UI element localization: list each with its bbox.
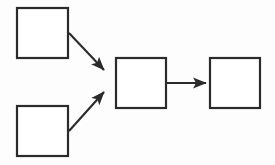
diagram-canvas [0,0,275,165]
node-group [17,8,260,156]
edge-top-left-to-middle[interactable] [69,33,104,70]
node-right-shape[interactable] [210,58,260,108]
node-bottom-left[interactable] [17,106,68,156]
node-bottom-left-shape[interactable] [17,106,68,156]
node-right[interactable] [210,58,260,108]
edge-bottom-left-to-middle[interactable] [69,92,104,131]
node-middle[interactable] [116,58,166,108]
node-top-left[interactable] [17,8,68,58]
flowchart-svg [0,0,275,165]
node-middle-shape[interactable] [116,58,166,108]
node-top-left-shape[interactable] [17,8,68,58]
